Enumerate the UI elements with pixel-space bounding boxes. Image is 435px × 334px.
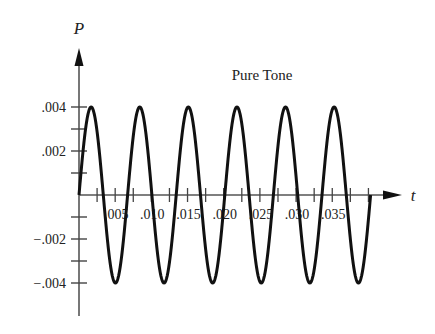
y-tick-label: .002 <box>42 144 67 159</box>
y-axis-arrow-icon <box>75 48 84 66</box>
x-axis-label: t <box>411 186 417 205</box>
axes <box>75 48 403 316</box>
pure-tone-chart: Pure Tone .004.002−.002−.004 .005.010.01… <box>0 0 435 334</box>
y-tick-label: −.002 <box>34 232 66 247</box>
chart-title: Pure Tone <box>232 67 293 83</box>
x-tick-label: .035 <box>321 207 346 222</box>
x-tick-label: .030 <box>285 207 310 222</box>
y-tick-label: .004 <box>42 100 67 115</box>
x-axis-arrow-icon <box>383 191 402 200</box>
x-tick-label: .015 <box>176 207 201 222</box>
y-tick-label: −.004 <box>34 276 66 291</box>
y-axis-label: P <box>73 19 84 38</box>
x-axis-ticks: .005.010.015.020.025.030.035 <box>97 188 368 222</box>
